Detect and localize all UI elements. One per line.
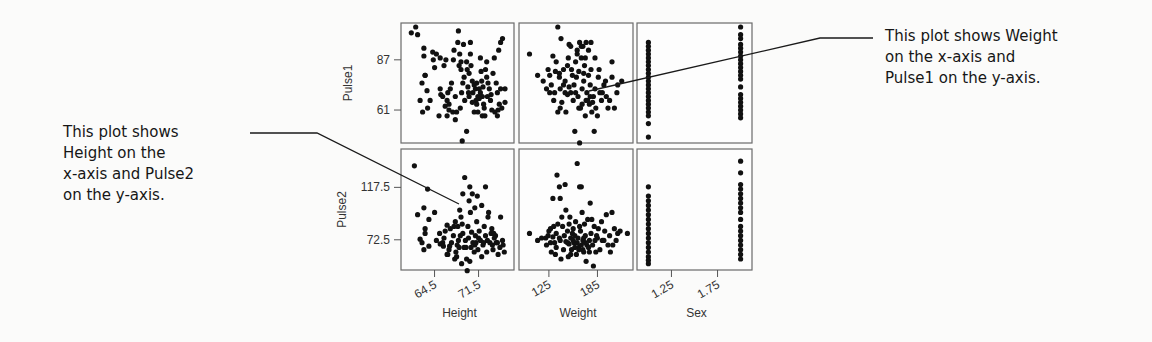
annotation-weight-pulse1: This plot shows Weight on the x-axis and… (885, 26, 1125, 89)
x-axis-weight: 125185Weight (529, 270, 602, 320)
y-axis-pulse1: 8761Pulse1 (341, 53, 401, 117)
panel-pulse2-vs-sex (637, 149, 752, 270)
scatterplot-matrix-figure: 8761Pulse1117.572.5Pulse264.571.5Height1… (0, 0, 1152, 342)
x-tick-label: 64.5 (412, 277, 440, 301)
x-axis-label: Height (442, 306, 477, 320)
x-axis-sex: 1.251.75Sex (649, 270, 723, 320)
panel-pulse1-vs-sex (637, 23, 752, 143)
y-tick-label: 72.5 (367, 233, 391, 247)
x-axis-label: Weight (559, 306, 597, 320)
x-tick-label: 71.5 (456, 277, 484, 301)
y-tick-label: 61 (377, 103, 391, 117)
x-tick-label: 1.75 (695, 277, 723, 301)
annotation-height-pulse2: This plot shows Height on the x-axis and… (63, 122, 253, 206)
y-axis-label: Pulse1 (341, 64, 355, 101)
x-axis-height: 64.571.5Height (412, 270, 484, 320)
panel-pulse1-vs-weight (519, 23, 633, 143)
x-tick-label: 1.25 (649, 277, 677, 301)
y-tick-label: 117.5 (361, 180, 390, 194)
x-tick-label: 125 (529, 277, 554, 299)
y-axis-label: Pulse2 (335, 191, 349, 228)
y-tick-label: 87 (377, 53, 391, 67)
x-tick-label: 185 (578, 277, 603, 299)
x-axis-label: Sex (686, 306, 707, 320)
y-axis-pulse2: 117.572.5Pulse2 (335, 180, 401, 246)
